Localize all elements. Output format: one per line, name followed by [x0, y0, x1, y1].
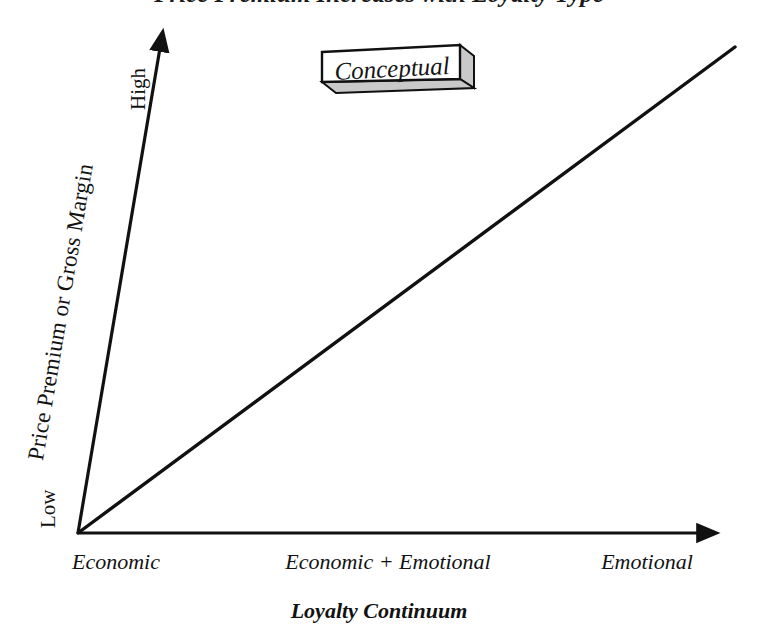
y-axis-high-label: High — [128, 68, 149, 110]
x-axis-title: Loyalty Continuum — [0, 600, 758, 622]
plot-area — [0, 0, 758, 641]
x-tick-label-emotional: Emotional — [577, 551, 717, 573]
y-axis-line — [78, 48, 160, 533]
y-axis-low-label: Low — [38, 490, 59, 529]
conceptual-loyalty-chart: Price Premium Increases with Loyalty Typ… — [0, 0, 758, 641]
x-tick-label-economic: Economic — [46, 551, 186, 573]
trend-line — [78, 47, 735, 533]
x-tick-label-economic-emotional: Economic + Emotional — [258, 551, 518, 573]
